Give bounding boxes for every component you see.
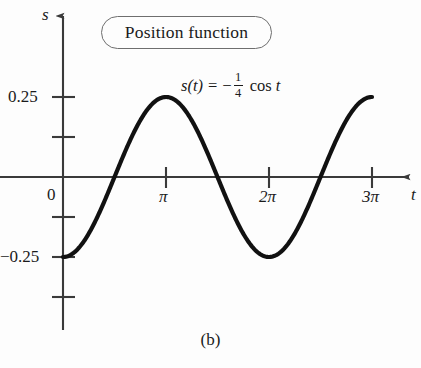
y-axis-label: s xyxy=(42,6,49,23)
x-tick-label-pi: π xyxy=(159,188,168,205)
origin-label: 0 xyxy=(47,186,56,203)
fraction-denominator: 4 xyxy=(234,87,242,100)
x-tick-label-3pi: 3π xyxy=(362,188,379,205)
plot-canvas xyxy=(0,0,421,368)
equation-lhs: s(t) xyxy=(181,76,203,96)
figure-caption: (b) xyxy=(0,330,421,350)
position-function-label: Position function xyxy=(102,17,271,48)
equation-annotation: s(t) = − 1 4 cos t xyxy=(181,71,280,101)
equation-equals: = xyxy=(208,76,217,96)
equation-trig-function: cos xyxy=(250,76,272,96)
y-tick-label-minus-0.25: −0.25 xyxy=(0,248,39,265)
fraction-numerator: 1 xyxy=(234,71,242,84)
equation-fraction: 1 4 xyxy=(234,71,243,101)
x-axis-label: t xyxy=(411,186,416,203)
equation-argument: t xyxy=(276,76,281,96)
x-tick-label-2pi: 2π xyxy=(259,188,276,205)
position-function-figure: s t 0.25 −0.25 0 π 2π 3π Position functi… xyxy=(0,0,421,368)
position-function-callout: Position function xyxy=(101,16,272,49)
y-tick-label-0.25: 0.25 xyxy=(8,88,38,105)
equation-minus-sign: − xyxy=(222,76,231,96)
